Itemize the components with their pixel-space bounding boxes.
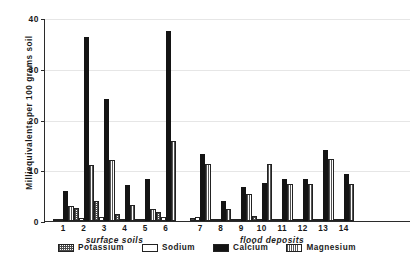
- x-tick-label: 9: [239, 224, 244, 233]
- legend-swatch-potassium: [58, 244, 74, 252]
- legend-label: Magnesium: [306, 243, 356, 252]
- bar-group: [252, 19, 273, 221]
- x-tick-label: 4: [122, 224, 127, 233]
- legend-label: Potassium: [78, 243, 124, 252]
- y-tick-mark: [41, 171, 45, 172]
- chart-legend: PotassiumSodiumCalciumMagnesium: [0, 243, 414, 252]
- bar-group: [293, 19, 314, 221]
- y-tick-label: 40: [28, 14, 39, 24]
- y-tick-label: 10: [28, 166, 39, 176]
- legend-item-sodium[interactable]: Sodium: [142, 243, 195, 252]
- bar-group: [272, 19, 293, 221]
- y-tick-label: 20: [28, 116, 39, 126]
- bar-group: [94, 19, 115, 221]
- legend-item-calcium[interactable]: Calcium: [213, 243, 268, 252]
- y-tick-mark: [41, 19, 45, 20]
- x-tick-label: 14: [339, 224, 349, 233]
- x-tick-label: 13: [318, 224, 328, 233]
- bar-group: [231, 19, 252, 221]
- x-tick-label: 5: [143, 224, 148, 233]
- bar-magnesium: [171, 141, 176, 221]
- legend-label: Calcium: [233, 243, 268, 252]
- bar-group: [115, 19, 136, 221]
- y-tick-mark: [41, 70, 45, 71]
- y-tick-label: 30: [28, 65, 39, 75]
- legend-item-magnesium[interactable]: Magnesium: [286, 243, 356, 252]
- x-tick-label: 1: [61, 224, 66, 233]
- legend-item-potassium[interactable]: Potassium: [58, 243, 124, 252]
- x-tick-label: 11: [278, 224, 287, 233]
- bar-magnesium: [349, 184, 354, 221]
- x-tick-label: 10: [257, 224, 267, 233]
- plot-area: 010203040 1234567891011121314surface soi…: [44, 19, 410, 222]
- bar-group: [156, 19, 177, 221]
- x-tick-label: 12: [298, 224, 308, 233]
- legend-swatch-sodium: [142, 244, 158, 252]
- legend-swatch-calcium: [213, 244, 229, 252]
- y-tick-label: 0: [34, 217, 39, 227]
- bar-group: [211, 19, 232, 221]
- bar-group: [190, 19, 211, 221]
- legend-label: Sodium: [162, 243, 195, 252]
- x-tick-label: 2: [81, 224, 86, 233]
- bar-group: [74, 19, 95, 221]
- bar-group: [313, 19, 334, 221]
- bar-group: [53, 19, 74, 221]
- x-tick-label: 8: [218, 224, 223, 233]
- bar-group: [135, 19, 156, 221]
- bar-group: [334, 19, 355, 221]
- y-axis-title: Milliequivalents per 100 grams soil: [25, 8, 34, 218]
- x-tick-label: 6: [163, 224, 168, 233]
- bar-chart: Milliequivalents per 100 grams soil 0102…: [0, 0, 414, 266]
- x-tick-label: 7: [198, 224, 203, 233]
- y-tick-mark: [41, 121, 45, 122]
- y-tick-mark: [41, 222, 45, 223]
- x-tick-label: 3: [102, 224, 107, 233]
- legend-swatch-magnesium: [286, 244, 302, 252]
